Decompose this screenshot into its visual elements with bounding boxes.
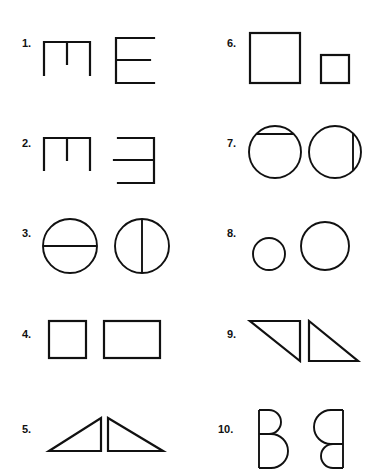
- figure-pair-10: [243, 404, 373, 474]
- item-number-9: 9.: [227, 329, 236, 340]
- item-number-5: 5.: [22, 424, 31, 435]
- item-number-8: 8.: [227, 228, 236, 239]
- figure-pair-3: [38, 212, 188, 280]
- item-number-2: 2.: [22, 138, 31, 149]
- figure-large-circle: [301, 222, 349, 270]
- item-number-4: 4.: [22, 329, 31, 340]
- item-number-7: 7.: [227, 138, 236, 149]
- figure-pair-8: [243, 214, 373, 278]
- item-number-6: 6.: [227, 38, 236, 49]
- figure-small-square: [321, 55, 349, 83]
- figure-letter-b-small-top-bowl: [259, 410, 288, 468]
- figure-pair-7: [243, 118, 373, 186]
- figure-m-shape: [44, 138, 90, 170]
- figure-letter-e: [116, 38, 154, 83]
- figure-m-shape: [44, 42, 90, 75]
- figure-right-triangle-bottom-right: [49, 418, 101, 451]
- worksheet-page: 1. 2.: [0, 0, 380, 476]
- figure-reversed-letter-e: [114, 138, 154, 183]
- figure-circle-vertical-chord: [309, 126, 361, 178]
- figure-letter-b-large-top-bowl-mirrored: [314, 410, 343, 468]
- item-number-3: 3.: [22, 228, 31, 239]
- figure-pair-9: [243, 313, 373, 369]
- figure-large-square: [250, 33, 300, 83]
- figure-pair-4: [38, 315, 188, 365]
- figure-circle-horizontal-chord: [249, 126, 301, 178]
- figure-pair-1: [38, 30, 188, 90]
- figure-right-triangle-top-left: [309, 321, 358, 361]
- figure-right-triangle-bottom-left: [108, 418, 163, 451]
- figure-pair-5: [38, 410, 188, 460]
- item-number-1: 1.: [22, 38, 31, 49]
- figure-right-triangle-top-right: [250, 321, 300, 361]
- figure-rectangle: [104, 321, 160, 358]
- figure-pair-2: [38, 130, 188, 190]
- figure-square: [49, 321, 86, 358]
- figure-pair-6: [243, 26, 373, 90]
- figure-circle-horizontal-diameter: [43, 219, 97, 273]
- figure-circle-vertical-diameter: [115, 219, 169, 273]
- item-number-10: 10.: [218, 424, 233, 435]
- figure-small-circle: [253, 238, 285, 270]
